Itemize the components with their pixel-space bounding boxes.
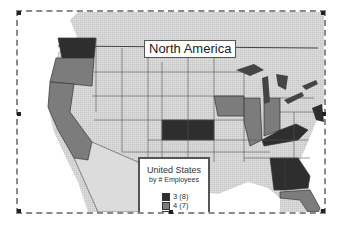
legend-subtitle: by # Employees <box>140 176 208 183</box>
legend-label-3: 3 (8) <box>173 192 188 201</box>
state-washington[interactable] <box>58 38 96 58</box>
legend-label-4: 4 (7) <box>173 201 188 210</box>
state-indiana[interactable] <box>264 98 280 136</box>
resize-handle-bottom-middle[interactable] <box>169 210 173 214</box>
resize-handle-right-middle[interactable] <box>322 112 326 116</box>
legend-item-5: 5 (4) <box>162 211 188 212</box>
resize-handle-left-middle[interactable] <box>17 112 21 116</box>
legend-swatch-4 <box>162 202 170 210</box>
map-title[interactable]: North America <box>144 40 236 58</box>
legend-label-5: 5 (4) <box>173 210 188 212</box>
resize-handle-top-left[interactable] <box>17 11 21 15</box>
resize-handle-bottom-left[interactable] <box>17 209 21 213</box>
map-legend[interactable]: United States by # Employees 3 (8) 4 (7)… <box>138 157 210 212</box>
legend-title: United States <box>140 165 208 175</box>
resize-handle-bottom-right[interactable] <box>321 209 325 213</box>
map-frame[interactable]: North America United States by # Employe… <box>18 12 324 212</box>
legend-swatch-3 <box>162 193 170 201</box>
resize-handle-top-right[interactable] <box>321 11 325 15</box>
state-oregon[interactable] <box>50 58 94 86</box>
state-iowa[interactable] <box>214 96 246 116</box>
